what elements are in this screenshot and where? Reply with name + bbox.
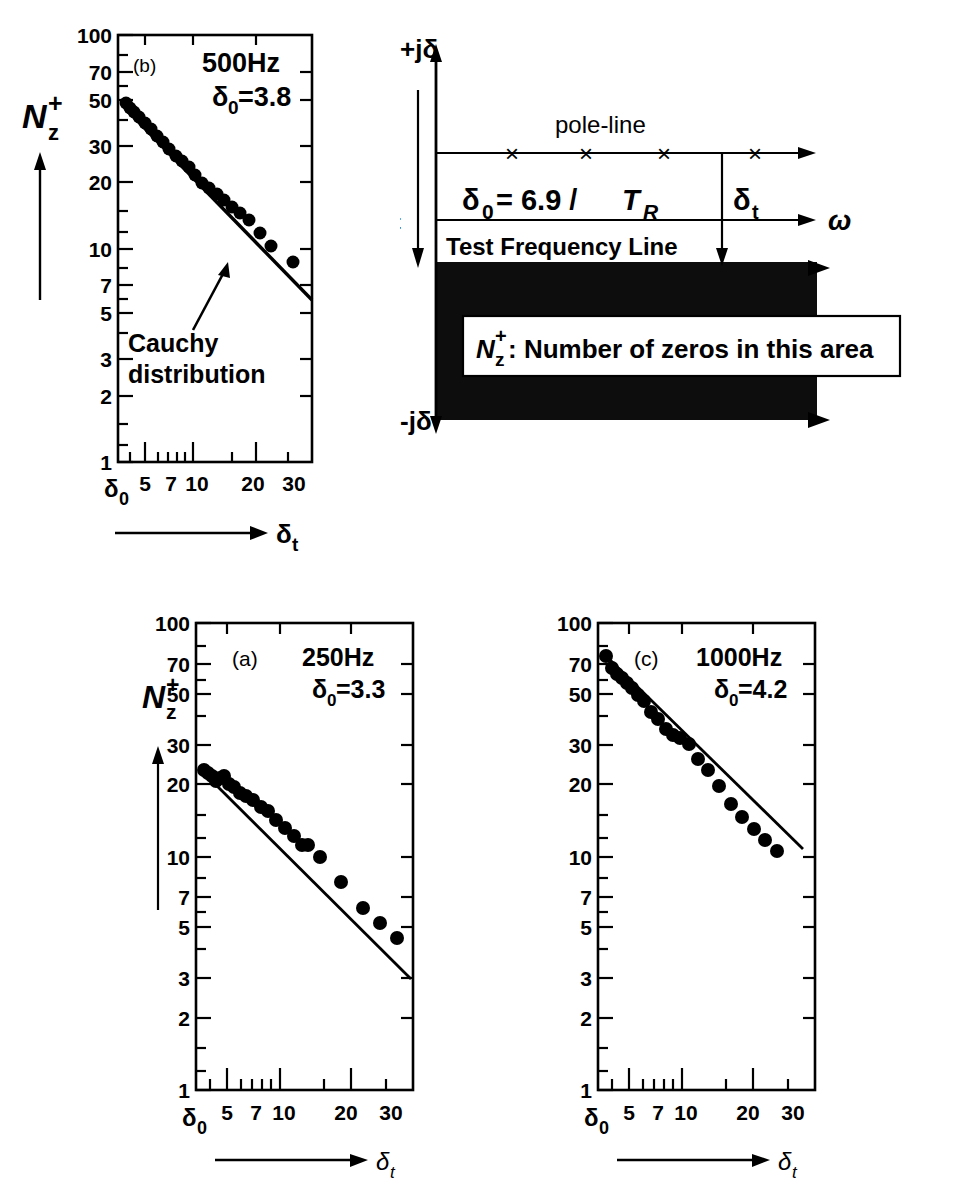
zeros-note-n: N: [476, 334, 496, 364]
y-tick-label: 1: [178, 1079, 190, 1102]
omega-label: ω: [828, 205, 851, 236]
figure-root: N + z: [0, 0, 953, 1190]
x-axis-arrow-subscript: t: [792, 1163, 798, 1182]
x-origin-label: δ: [182, 1104, 197, 1131]
delta-t-left-group: δ t: [400, 90, 424, 268]
fit-line-a: [202, 771, 411, 979]
x-tick-label: 10: [674, 1101, 697, 1124]
x-axis-arrow-group-a: δ t: [215, 1148, 396, 1182]
zeros-note-text: : Number of zeros in this area: [508, 334, 874, 364]
x-tick-label: 7: [250, 1101, 262, 1124]
y-tick-label: 1: [100, 451, 112, 474]
panel-delta0-c: δ 0 =4.2: [714, 675, 787, 710]
x-axis-arrow-label: δ: [376, 1148, 390, 1175]
y-tick-label: 5: [178, 916, 190, 939]
pole-marker-x: ×: [579, 140, 593, 167]
x-origin-label: δ: [584, 1104, 599, 1131]
x-tick-label: 30: [379, 1101, 402, 1124]
shaded-area-arrow: [808, 260, 830, 276]
x-tick-labels-a: 5 7 10 20 30 δ 0: [182, 1101, 403, 1138]
y-tick-label: 2: [178, 1007, 190, 1030]
x-tick-label: 20: [241, 472, 264, 495]
delta0-symbol-b: δ: [212, 82, 228, 112]
y-tick-label: 20: [167, 773, 190, 796]
x-tick-label: 5: [139, 472, 151, 495]
panel-delta0-b: δ 0 =3.8: [212, 82, 291, 118]
panel-b-chart: N + z: [0, 0, 400, 560]
pole-line-arrow: [798, 147, 816, 159]
y-tick-label: 50: [89, 89, 112, 112]
zeros-note-subscript: z: [495, 349, 505, 370]
x-axis-arrow-label: δ: [778, 1148, 792, 1175]
y-tick-label: 20: [89, 171, 112, 194]
delta-t-right-label: δ: [733, 184, 751, 216]
x-axis-arrow-label: δ: [276, 519, 292, 549]
x-axis-arrow-head: [752, 1154, 770, 1167]
x-axis-arrow-group-b: δ t: [115, 519, 299, 555]
y-tick-label: 1: [580, 1079, 592, 1102]
delta0-equation-t-subscript: R: [643, 200, 659, 223]
x-tick-label: 7: [165, 472, 177, 495]
data-points-b: [120, 97, 300, 269]
x-tick-labels-c: 5 7 10 20 30 δ 0: [584, 1101, 805, 1138]
x-axis-arrow-subscript: t: [292, 534, 299, 555]
y-tick-label: 100: [557, 612, 592, 635]
delta0-value-a: =3.3: [336, 675, 385, 703]
y-tick-label: 30: [89, 135, 112, 158]
y-axis-label-n: N: [142, 679, 166, 715]
delta0-equation-symbol: δ: [462, 184, 480, 216]
y-tick-label: 70: [89, 61, 112, 84]
delta0-equation: δ 0 = 6.9 / T R: [462, 184, 659, 223]
delta0-equation-t: T: [622, 184, 642, 216]
omega-axis-arrow: [798, 214, 816, 226]
y-tick-labels-b: 100 70 50 30 20 10 7 5 3 2 1: [77, 24, 112, 474]
y-tick-label: 5: [580, 916, 592, 939]
y-tick-label: 3: [100, 348, 112, 371]
x-tick-label: 10: [272, 1101, 295, 1124]
panel-frequency-c: 1000Hz: [696, 643, 782, 671]
delta0-value-b: =3.8: [238, 82, 291, 112]
y-tick-label: 3: [178, 967, 190, 990]
panel-a-chart: N + z: [80, 590, 550, 1190]
test-frequency-line-label: Test Frequency Line: [446, 233, 678, 260]
x-tick-label: 20: [334, 1101, 357, 1124]
cauchy-label-line2: distribution: [128, 360, 265, 388]
imaginary-axis-arrow-down: [430, 416, 442, 434]
delta0-symbol-a: δ: [312, 675, 327, 703]
pole-marker-x: ×: [505, 140, 519, 167]
cauchy-annotation-b: Cauchy distribution: [128, 262, 265, 388]
y-tick-label: 5: [100, 302, 112, 325]
delta-t-left-arrow-head: [412, 248, 424, 268]
panel-delta0-a: δ 0 =3.3: [312, 675, 385, 710]
y-tick-label: 70: [167, 653, 190, 676]
y-tick-label: 20: [569, 773, 592, 796]
y-axis-label-superscript: +: [48, 89, 63, 117]
y-tick-label: 10: [167, 846, 190, 869]
x-tick-label: 30: [282, 472, 305, 495]
y-tick-label: 2: [580, 1007, 592, 1030]
x-axis-arrow-subscript: t: [390, 1163, 396, 1182]
x-tick-label: 10: [185, 472, 208, 495]
x-tick-label: 20: [736, 1101, 759, 1124]
zeros-note-box: N + z : Number of zeros in this area: [463, 316, 900, 376]
y-tick-labels-c: 100 70 50 30 20 10 7 5 3 2 1: [557, 612, 592, 1102]
pole-marker-x: ×: [748, 140, 762, 167]
panel-c-chart: 100 70 50 30 20 10 7 5 3 2 1 5 7 10 20 3…: [520, 590, 950, 1190]
panel-tag-c: (c): [634, 647, 659, 670]
x-origin-subscript: 0: [119, 489, 129, 509]
y-tick-label: 7: [580, 886, 592, 909]
panel-tag-b: (b): [133, 55, 156, 76]
y-tick-label: 70: [569, 653, 592, 676]
y-tick-label: 7: [178, 886, 190, 909]
y-tick-label: 100: [155, 612, 190, 635]
y-tick-label: 7: [100, 274, 112, 297]
y-axis-label-n: N: [22, 97, 48, 135]
axis-top-label: +jδ: [400, 34, 438, 64]
x-tick-label: 5: [623, 1101, 635, 1124]
y-tick-label: 100: [77, 24, 112, 47]
y-axis-arrow-head: [34, 152, 46, 170]
y-axis-label-subscript: z: [48, 120, 59, 145]
y-tick-label: 10: [569, 846, 592, 869]
delta0-equation-subscript: 0: [482, 200, 494, 223]
x-axis-arrow-head: [350, 1154, 368, 1167]
